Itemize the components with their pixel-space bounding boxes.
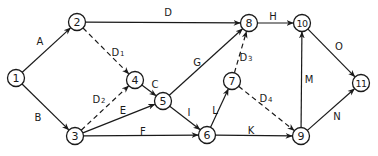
edge-label-subscript: 2 <box>101 97 105 105</box>
node-label: 1 <box>13 72 20 85</box>
edge-9-11-arrow <box>307 89 354 130</box>
edge-label-subscript: 1 <box>120 50 124 58</box>
node-10: 10 <box>294 15 311 32</box>
node-5: 5 <box>155 93 172 110</box>
node-3: 3 <box>67 128 84 145</box>
node-11: 11 <box>353 75 370 92</box>
node-4: 4 <box>127 72 144 89</box>
edge-9-10-arrow <box>301 32 302 128</box>
edge-label-i: I <box>188 107 191 118</box>
node-2: 2 <box>69 14 86 31</box>
node-label: 5 <box>160 95 167 108</box>
edge-label-b: B <box>35 112 42 123</box>
edge-label-d4: D4 <box>259 93 273 105</box>
edge-label-e: E <box>120 105 126 116</box>
node-label: 7 <box>229 75 236 88</box>
edge-label-g: G <box>193 57 201 68</box>
edge-label-f: F <box>140 126 146 137</box>
edge-label-k: K <box>248 125 255 136</box>
node-1: 1 <box>8 70 25 87</box>
nodes-layer: 1234567891011 <box>8 14 370 145</box>
node-6: 6 <box>199 127 216 144</box>
node-label: 8 <box>246 17 253 30</box>
edge-label-c: C <box>152 79 159 90</box>
network-diagram: ABDD1D2CEFGILD3D4KHMON 1234567891011 <box>0 0 378 156</box>
node-7: 7 <box>224 73 241 90</box>
edge-label-d: D <box>164 7 172 18</box>
edge-10-11-arrow <box>308 29 355 77</box>
node-label: 2 <box>74 16 81 29</box>
node-label: 10 <box>296 18 308 29</box>
edge-label-subscript: 3 <box>248 55 252 63</box>
edge-label-a: A <box>37 36 44 47</box>
edge-label-m: M <box>305 74 314 85</box>
edge-2-8-arrow <box>86 22 241 23</box>
edge-label-h: H <box>269 11 277 22</box>
node-8: 8 <box>241 15 258 32</box>
edge-5-6-arrow <box>170 106 200 129</box>
node-label: 9 <box>298 130 305 143</box>
node-label: 4 <box>132 74 139 87</box>
edge-label-d1: D1 <box>111 47 124 59</box>
node-label: 6 <box>204 129 211 142</box>
edge-label-subscript: 4 <box>268 96 273 104</box>
edge-label-l: L <box>212 105 218 116</box>
node-label: 3 <box>72 130 79 143</box>
node-9: 9 <box>293 128 310 145</box>
edge-label-d2: D2 <box>92 94 105 106</box>
network-canvas: ABDD1D2CEFGILD3D4KHMON 1234567891011 <box>0 0 378 156</box>
edge-1-2-arrow <box>22 28 70 72</box>
edge-label-o: O <box>335 41 343 52</box>
edge-label-d3: D3 <box>239 52 252 64</box>
edge-label-n: N <box>333 111 340 122</box>
node-label: 11 <box>355 78 367 89</box>
edge-1-3-arrow <box>22 84 69 130</box>
